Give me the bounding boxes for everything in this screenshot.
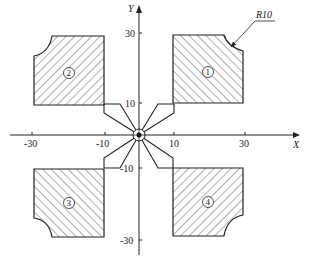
- x-tick-neg10: -10: [96, 138, 109, 149]
- part-2-label: 2: [67, 68, 72, 78]
- part-2: 2: [34, 36, 104, 105]
- part-3: 3: [34, 169, 104, 237]
- x-tick-30: 30: [239, 138, 249, 149]
- diagram-canvas: -30 -10 10 30 X 30 10 -10 -30 Y 1 2 3: [0, 0, 309, 265]
- x-tick-10: 10: [169, 138, 179, 149]
- radius-annotation: R10: [231, 9, 275, 47]
- y-tick-10: 10: [125, 98, 135, 109]
- part-4: 4: [173, 168, 243, 236]
- cnc-toolpath-diagram: -30 -10 10 30 X 30 10 -10 -30 Y 1 2 3: [0, 0, 309, 265]
- y-tick-30: 30: [125, 28, 135, 39]
- y-axis-arrow-icon: [136, 5, 142, 13]
- part-4-label: 4: [206, 197, 211, 207]
- radius-label: R10: [255, 9, 272, 20]
- x-axis: -30 -10 10 30 X: [10, 132, 300, 150]
- origin-tool-marker: [133, 129, 145, 141]
- x-axis-label: X: [292, 139, 300, 150]
- x-axis-arrow-icon: [293, 132, 300, 138]
- part-1-label: 1: [206, 67, 211, 77]
- part-3-label: 3: [67, 198, 72, 208]
- y-tick-neg30: -30: [120, 235, 133, 246]
- x-tick-neg30: -30: [24, 138, 37, 149]
- y-axis-label: Y: [128, 3, 135, 14]
